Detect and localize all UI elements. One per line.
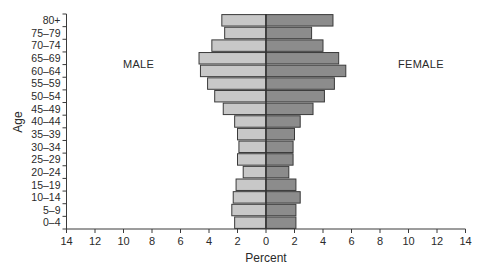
bar-female-75–79 <box>266 27 312 38</box>
bar-female-50–54 <box>266 90 324 101</box>
age-tick-label: 35–39 <box>31 128 60 140</box>
x-tick-label: 8 <box>149 235 155 247</box>
x-tick-label: 14 <box>459 235 471 247</box>
age-tick-label: 5–9 <box>43 204 61 216</box>
bar-male-45–49 <box>223 103 266 114</box>
bar-male-60–64 <box>200 65 266 76</box>
x-tick-label: 6 <box>177 235 183 247</box>
age-tick-label: 15–19 <box>31 179 60 191</box>
bar-female-30–34 <box>266 141 293 152</box>
age-tick-label: 70–74 <box>31 39 60 51</box>
x-tick-label: 2 <box>234 235 240 247</box>
bar-male-5–9 <box>232 204 266 215</box>
x-tick-label: 2 <box>291 235 297 247</box>
bar-male-80+ <box>222 15 266 26</box>
bar-male-35–39 <box>238 128 267 139</box>
bar-female-45–49 <box>266 103 313 114</box>
x-tick-label: 10 <box>117 235 129 247</box>
bar-female-70–74 <box>266 40 323 51</box>
bar-male-55–59 <box>208 78 266 89</box>
bar-male-40–44 <box>235 116 266 127</box>
y-axis: 80+75–7970–7465–6960–6455–5950–5445–4940… <box>31 14 66 229</box>
x-tick-label: 10 <box>402 235 414 247</box>
age-tick-label: 45–49 <box>31 103 60 115</box>
bar-male-10–14 <box>233 192 266 203</box>
y-axis-title: Age <box>11 111 25 133</box>
x-tick-label: 8 <box>377 235 383 247</box>
bar-female-15–19 <box>266 179 296 190</box>
bar-female-65–69 <box>266 53 339 64</box>
x-tick-label: 4 <box>206 235 212 247</box>
bar-female-35–39 <box>266 128 295 139</box>
male-label: MALE <box>123 58 154 70</box>
x-tick-label: 0 <box>263 235 269 247</box>
age-tick-label: 25–29 <box>31 153 60 165</box>
female-label: FEMALE <box>398 58 444 70</box>
age-tick-label: 65–69 <box>31 52 60 64</box>
bar-female-10–14 <box>266 192 300 203</box>
age-tick-label: 0–4 <box>43 216 61 228</box>
age-tick-label: 75–79 <box>31 27 60 39</box>
x-tick-label: 12 <box>89 235 101 247</box>
bar-male-70–74 <box>212 40 266 51</box>
bars-group <box>199 15 346 229</box>
population-pyramid-chart: 80+75–7970–7465–6960–6455–5950–5445–4940… <box>0 0 481 272</box>
x-axis: 141210864202468101214 <box>60 229 471 247</box>
age-tick-label: 10–14 <box>31 191 60 203</box>
bar-female-80+ <box>266 15 333 26</box>
age-tick-label: 55–59 <box>31 77 60 89</box>
age-tick-label: 60–64 <box>31 65 60 77</box>
age-tick-label: 30–34 <box>31 141 60 153</box>
bar-male-30–34 <box>239 141 266 152</box>
bar-male-15–19 <box>236 179 266 190</box>
bar-male-75–79 <box>225 27 266 38</box>
x-tick-label: 4 <box>320 235 326 247</box>
x-axis-title: Percent <box>245 251 287 265</box>
bar-male-20–24 <box>243 166 266 177</box>
x-tick-label: 6 <box>348 235 354 247</box>
age-tick-label: 40–44 <box>31 115 60 127</box>
age-tick-label: 20–24 <box>31 166 60 178</box>
x-tick-label: 12 <box>431 235 443 247</box>
bar-female-5–9 <box>266 204 296 215</box>
bar-female-55–59 <box>266 78 334 89</box>
bar-female-40–44 <box>266 116 300 127</box>
bar-female-25–29 <box>266 154 293 165</box>
age-tick-label: 80+ <box>43 14 61 26</box>
bar-male-65–69 <box>199 53 266 64</box>
bar-male-25–29 <box>238 154 267 165</box>
bar-female-60–64 <box>266 65 346 76</box>
bar-female-20–24 <box>266 166 289 177</box>
age-tick-label: 50–54 <box>31 90 60 102</box>
x-tick-label: 14 <box>60 235 72 247</box>
bar-male-0–4 <box>235 217 266 228</box>
bar-female-0–4 <box>266 217 296 228</box>
bar-male-50–54 <box>215 90 266 101</box>
